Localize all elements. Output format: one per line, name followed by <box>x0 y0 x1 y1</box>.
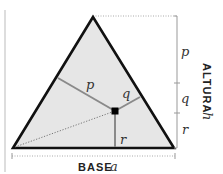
base-variable: a <box>110 159 118 174</box>
interior-point <box>112 108 119 115</box>
height-scale: p q r <box>174 16 190 148</box>
height-part-q: q <box>181 91 189 106</box>
label-q: q <box>122 86 130 101</box>
height-part-p: p <box>181 44 190 59</box>
height-variable: h <box>200 112 215 120</box>
triangle-diagram: p q r p q r ALTURA h BASE a <box>0 0 223 174</box>
base-title: BASE <box>78 161 113 173</box>
base-scale <box>12 153 175 159</box>
label-r: r <box>120 132 127 147</box>
height-part-r: r <box>182 122 189 137</box>
height-title: ALTURA <box>201 63 213 113</box>
label-p: p <box>86 77 95 92</box>
